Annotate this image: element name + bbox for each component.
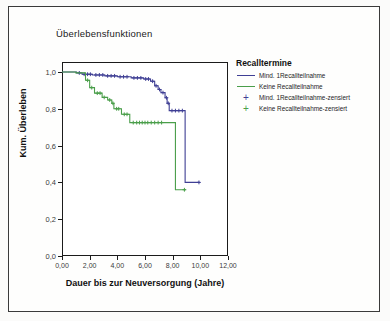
legend-entries: Mind. 1RecallteilnahmeKeine Recallteilna… <box>236 71 376 113</box>
censor-mark <box>197 181 201 185</box>
censor-mark <box>156 121 160 125</box>
y-tick-label: 1,0 <box>30 68 56 77</box>
x-tick-mark <box>117 256 118 260</box>
censor-mark <box>117 107 121 111</box>
censor-mark <box>118 75 122 79</box>
censor-mark <box>147 77 151 81</box>
legend-label: Keine Recallteilnahme <box>256 83 323 90</box>
legend-item: +Mind. 1Recallteilnahme-zensiert <box>236 93 376 102</box>
censor-mark <box>183 188 187 192</box>
censor-mark <box>102 95 106 99</box>
censor-mark <box>97 73 101 77</box>
x-tick-mark <box>145 256 146 260</box>
x-axis-title: Dauer bis zur Neuversorgung (Jahre) <box>62 278 228 288</box>
censor-mark <box>170 109 174 113</box>
x-tick-mark <box>200 256 201 260</box>
censor-mark <box>125 112 129 116</box>
x-tick-mark <box>90 256 91 260</box>
legend-plus-swatch: + <box>236 104 256 113</box>
legend: Recalltermine Mind. 1RecallteilnahmeKein… <box>236 58 376 115</box>
survival-curves <box>62 62 228 256</box>
y-tick-label: 0,6 <box>30 141 56 150</box>
censor-mark <box>153 121 157 125</box>
censor-mark <box>122 75 126 79</box>
legend-line-swatch <box>236 82 256 91</box>
censor-marks <box>86 78 187 191</box>
censor-mark <box>90 86 94 90</box>
censor-mark <box>161 91 165 95</box>
survival-curve <box>62 72 200 182</box>
censor-mark <box>113 74 117 78</box>
censor-mark <box>174 109 178 113</box>
legend-plus-swatch: + <box>236 93 256 102</box>
censor-mark <box>94 73 98 77</box>
legend-item: Mind. 1Recallteilnahme <box>236 71 376 80</box>
censor-mark <box>180 109 184 113</box>
y-tick-label: 0,2 <box>30 215 56 224</box>
line-swatch-icon <box>237 86 255 87</box>
legend-title: Recalltermine <box>236 58 376 68</box>
censor-mark <box>146 121 150 125</box>
y-tick-label: 0,8 <box>30 104 56 113</box>
censor-mark <box>139 76 143 80</box>
censor-mark <box>149 121 153 125</box>
censor-marks <box>77 71 200 184</box>
censor-mark <box>98 91 102 95</box>
legend-label: Keine Recallteilnahme-zensiert <box>256 105 347 112</box>
legend-label: Mind. 1Recallteilnahme-zensiert <box>256 94 350 101</box>
censor-mark <box>88 72 92 76</box>
line-swatch-icon <box>237 75 255 76</box>
plus-icon: + <box>243 93 249 102</box>
censor-mark <box>151 79 155 83</box>
censor-mark <box>106 74 110 78</box>
censor-mark <box>125 75 129 79</box>
x-tick-mark <box>173 256 174 260</box>
survival-curve <box>62 72 186 190</box>
y-tick-label: 0,4 <box>30 178 56 187</box>
x-tick-mark <box>228 256 229 260</box>
legend-item: Keine Recallteilnahme <box>236 82 376 91</box>
chart-page: Überlebensfunktionen Kum. Überleben 0,00… <box>0 0 390 321</box>
legend-label: Mind. 1Recallteilnahme <box>256 72 325 79</box>
censor-mark <box>160 121 164 125</box>
censor-mark <box>109 74 113 78</box>
legend-item: +Keine Recallteilnahme-zensiert <box>236 104 376 113</box>
censor-mark <box>86 78 90 82</box>
legend-line-swatch <box>236 71 256 80</box>
x-tick-mark <box>62 256 63 260</box>
censor-mark <box>132 76 136 80</box>
plus-icon: + <box>243 104 249 113</box>
censor-mark <box>101 73 105 77</box>
censor-mark <box>135 76 139 80</box>
y-axis-title: Kum. Überleben <box>18 63 28 183</box>
censor-mark <box>108 98 112 102</box>
censor-mark <box>177 109 181 113</box>
y-tick-label: 0,0 <box>30 252 56 261</box>
x-tick-label: 12,00 <box>212 262 244 269</box>
chart-title: Überlebensfunktionen <box>56 28 152 39</box>
censor-mark <box>131 121 135 125</box>
